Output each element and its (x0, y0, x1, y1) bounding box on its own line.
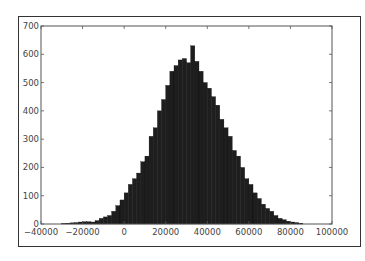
y-tick-label: 600 (23, 49, 39, 59)
histogram-bar (120, 200, 124, 224)
histogram-bar (224, 128, 228, 224)
histogram-bar (220, 119, 224, 224)
histogram-bar (162, 100, 166, 224)
x-tick-label: 20000 (152, 227, 179, 237)
histogram-bars (62, 46, 303, 224)
histogram-bar (216, 105, 220, 224)
histogram-bar (203, 83, 207, 224)
histogram-bar (228, 136, 232, 224)
histogram-bar (166, 85, 170, 224)
histogram-bar (141, 162, 145, 224)
histogram-bar (157, 111, 161, 224)
histogram-bar (199, 71, 203, 224)
histogram-bar (191, 46, 195, 224)
histogram-bar (249, 184, 253, 224)
histogram-bar (153, 128, 157, 224)
histogram-bar (132, 179, 136, 224)
histogram-bar (182, 59, 186, 224)
y-tick-label: 0 (34, 219, 39, 229)
x-tick-label: 60000 (235, 227, 262, 237)
histogram-bar (116, 206, 120, 224)
x-tick-label: 0 (121, 227, 126, 237)
histogram-bar (257, 199, 261, 224)
histogram-bar (236, 156, 240, 224)
histogram-bar (108, 216, 112, 224)
histogram-bar (170, 71, 174, 224)
histogram-bar (278, 218, 282, 224)
histogram-bar (211, 97, 215, 224)
histogram-bar (195, 61, 199, 224)
histogram-chart: −40000−20000020000400006000080000100000 … (0, 0, 365, 261)
histogram-bar (99, 218, 103, 224)
histogram-bar (145, 156, 149, 224)
histogram-bar (149, 136, 153, 224)
histogram-bar (265, 208, 269, 224)
x-tick-label: −40000 (24, 227, 58, 237)
histogram-bar (282, 220, 286, 224)
histogram-bar (274, 216, 278, 224)
y-tick-label: 400 (23, 106, 39, 116)
histogram-bar (128, 184, 132, 224)
histogram-bar (187, 63, 191, 224)
histogram-bar (207, 88, 211, 224)
x-tick-label: 100000 (316, 227, 348, 237)
histogram-bar (103, 217, 107, 224)
histogram-bar (174, 66, 178, 224)
y-tick-label: 500 (23, 78, 39, 88)
histogram-bar (232, 150, 236, 224)
x-tick-label: −20000 (65, 227, 99, 237)
y-tick-label: 200 (23, 162, 39, 172)
y-tick-label: 300 (23, 134, 39, 144)
histogram-bar (261, 204, 265, 224)
histogram-bar (137, 173, 141, 224)
histogram-bar (178, 60, 182, 224)
x-tick-label: 80000 (277, 227, 304, 237)
histogram-bar (253, 193, 257, 224)
histogram-bar (245, 179, 249, 224)
y-tick-label: 700 (23, 21, 39, 31)
histogram-bar (241, 167, 245, 224)
x-tick-label: 40000 (194, 227, 221, 237)
histogram-bar (112, 211, 116, 224)
histogram-bar (270, 211, 274, 224)
histogram-bar (95, 221, 99, 224)
y-tick-label: 100 (23, 191, 39, 201)
histogram-bar (124, 193, 128, 224)
